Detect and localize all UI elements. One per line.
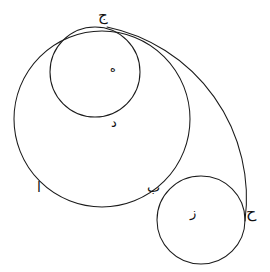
point-label-hah: ح [246,204,256,220]
point-label-beh: ب [147,180,160,194]
lower-right-circle [157,176,245,264]
point-label-dal: د [111,116,117,129]
point-label-alif: ا [37,180,41,194]
point-label-heh: ه [110,63,116,74]
point-label-jeem: ج [98,8,108,23]
upper-small-circle [50,27,140,117]
geometry-canvas [0,0,270,272]
crossing-arc [107,27,246,221]
geometry-figure: ج ه د ب ز ح ا [0,0,270,272]
point-label-zay: ز [190,206,196,219]
